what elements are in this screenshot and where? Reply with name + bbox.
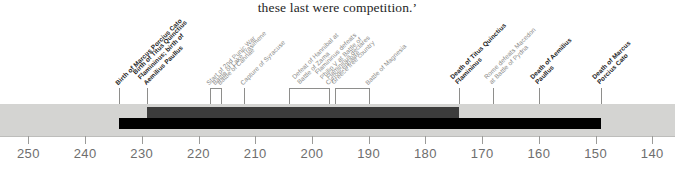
leader-zama-bracket-crossbar <box>289 88 329 89</box>
axis-tick-250 <box>28 136 29 144</box>
axis-tick-label-170: 170 <box>471 146 494 161</box>
axis-tick-label-200: 200 <box>301 146 324 161</box>
axis-tick-170 <box>482 136 483 144</box>
axis-tick-150 <box>596 136 597 144</box>
axis-tick-label-160: 160 <box>527 146 550 161</box>
leader-death-cato <box>601 88 602 104</box>
axis-tick-240 <box>85 136 86 144</box>
leader-capture-syracuse <box>244 88 245 104</box>
axis-tick-label-180: 180 <box>414 146 437 161</box>
axis-tick-label-220: 220 <box>187 146 210 161</box>
titus-quinctius-flamininus-lifespan <box>147 107 459 118</box>
axis-tick-label-140: 140 <box>641 146 664 161</box>
leader-punic-war-bracket-crossbar <box>210 88 221 89</box>
leader-greece-free-bracket-stem-0 <box>335 88 336 104</box>
leader-punic-war-bracket-stem-0 <box>210 88 211 104</box>
event-label-death-marcus-porcius-cato: Death of MarcusPorcius Cato <box>591 39 638 86</box>
axis-tick-180 <box>425 136 426 144</box>
leader-greece-free-bracket-stem-1 <box>369 88 370 104</box>
axis-tick-label-190: 190 <box>357 146 380 161</box>
leader-punic-war-bracket-stem-1 <box>221 88 222 104</box>
axis-tick-190 <box>369 136 370 144</box>
axis-tick-200 <box>312 136 313 144</box>
axis-tick-140 <box>652 136 653 144</box>
axis-tick-label-250: 250 <box>17 146 40 161</box>
leader-zama-bracket-stem-1 <box>329 88 330 104</box>
leader-zama-bracket-stem-0 <box>289 88 290 104</box>
leader-death-flamininus <box>459 88 460 104</box>
axis-tick-220 <box>199 136 200 144</box>
axis-tick-230 <box>142 136 143 144</box>
axis-tick-label-230: 230 <box>130 146 153 161</box>
axis-line <box>0 136 675 137</box>
marcus-porcius-cato-lifespan <box>119 118 601 129</box>
leader-greece-free-bracket-crossbar <box>335 88 369 89</box>
axis-tick-160 <box>539 136 540 144</box>
leader-pydna <box>493 88 494 104</box>
leader-birth-flamininus <box>147 88 148 104</box>
axis-tick-label-150: 150 <box>584 146 607 161</box>
page-running-text: these last were competition.’ <box>0 0 675 16</box>
leader-death-paullus <box>539 88 540 104</box>
axis-tick-label-210: 210 <box>244 146 267 161</box>
timeline-figure: these last were competition.’ Birth of M… <box>0 0 675 174</box>
axis-tick-210 <box>255 136 256 144</box>
leader-birth-cato <box>119 88 120 104</box>
axis-tick-label-240: 240 <box>74 146 97 161</box>
event-label-death-aemilius-paullus: Death of AemiliusPaullus <box>528 36 578 86</box>
